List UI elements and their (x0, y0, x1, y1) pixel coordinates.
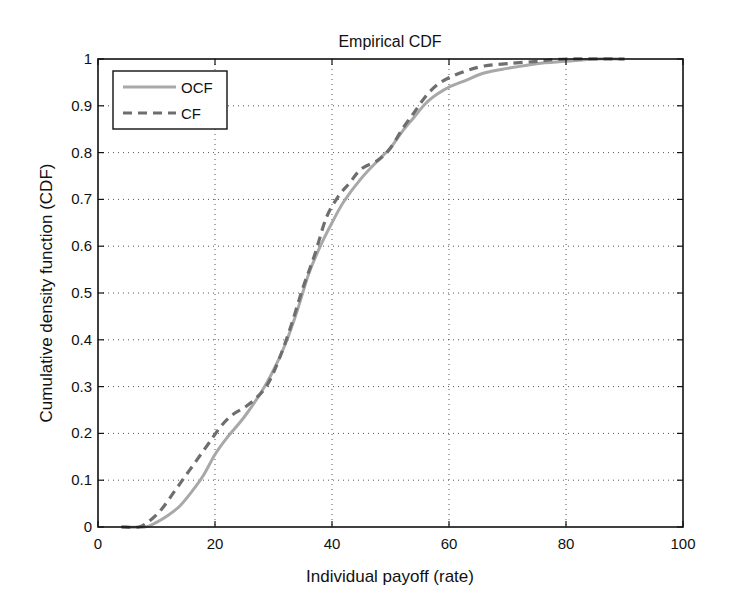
x-axis-label: Individual payoff (rate) (306, 567, 474, 586)
cdf-chart: Empirical CDF 02040608010000.10.20.30.40… (0, 0, 730, 608)
y-tick-label: 0.6 (71, 237, 92, 254)
legend-ocf-label: OCF (181, 79, 213, 96)
x-tick-label: 100 (670, 535, 695, 552)
y-tick-label: 0.8 (71, 144, 92, 161)
legend-cf-label: CF (181, 105, 201, 122)
legend: OCF CF (113, 71, 227, 129)
chart-title: Empirical CDF (338, 33, 441, 50)
y-tick-label: 0.7 (71, 190, 92, 207)
x-tick-label: 60 (441, 535, 458, 552)
x-tick-label: 20 (207, 535, 224, 552)
x-tick-label: 80 (558, 535, 575, 552)
y-tick-label: 0.3 (71, 378, 92, 395)
y-tick-label: 0 (84, 518, 92, 535)
y-tick-label: 0.1 (71, 471, 92, 488)
y-axis-label: Cumulative density function (CDF) (37, 164, 56, 423)
y-tick-label: 0.9 (71, 97, 92, 114)
y-tick-label: 0.2 (71, 424, 92, 441)
y-tick-label: 1 (84, 50, 92, 67)
y-tick-label: 0.4 (71, 331, 92, 348)
x-tick-label: 40 (324, 535, 341, 552)
y-tick-label: 0.5 (71, 284, 92, 301)
x-tick-label: 0 (94, 535, 102, 552)
